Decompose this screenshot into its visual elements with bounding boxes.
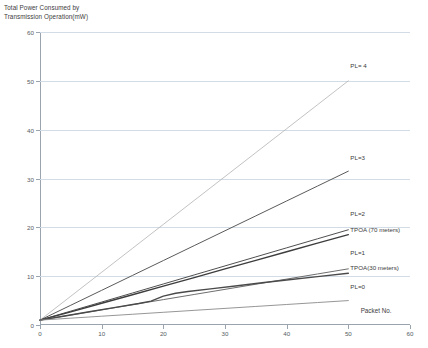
y-tick-label: 50: [27, 77, 34, 84]
y-tick-label: 30: [27, 175, 34, 182]
x-tick: [40, 325, 41, 329]
x-tick-label: 50: [345, 330, 352, 337]
x-tick: [410, 325, 411, 329]
x-tick-label: 40: [283, 330, 290, 337]
x-tick: [348, 325, 349, 329]
x-tick-label: 10: [98, 330, 105, 337]
series-line: [40, 171, 348, 320]
y-tick-label: 20: [27, 224, 34, 231]
series-line: [40, 230, 348, 320]
series-line: [40, 235, 348, 320]
x-tick-label: 0: [38, 330, 41, 337]
y-axis-title: Total Power Consumed by Transmission Ope…: [4, 3, 154, 21]
y-tick-label: 0: [31, 322, 34, 329]
x-axis-title: Packet No.: [361, 307, 392, 314]
series-line: [40, 301, 348, 321]
series-line: [40, 273, 348, 320]
chart-screenshot: Total Power Consumed by Transmission Ope…: [0, 0, 428, 348]
x-tick-label: 30: [222, 330, 229, 337]
series-label: PL=2: [350, 209, 365, 216]
x-tick: [225, 325, 226, 329]
y-tick-label: 10: [27, 273, 34, 280]
series-line: [40, 81, 348, 320]
y-tick-label: 40: [27, 126, 34, 133]
series-label: PL=1: [350, 249, 365, 256]
series-label: PL= 4: [350, 62, 366, 69]
series-label: TPOA(30 meters): [350, 263, 398, 270]
x-tick: [287, 325, 288, 329]
x-tick: [102, 325, 103, 329]
plot-area: 0102030405060 0102030405060 PL= 4PL=3PL=…: [40, 32, 410, 325]
series-label: PL=3: [350, 153, 365, 160]
x-tick: [163, 325, 164, 329]
y-tick-label: 60: [27, 29, 34, 36]
series-label: PL=0: [350, 282, 365, 289]
x-tick-label: 60: [407, 330, 414, 337]
series-lines: [40, 32, 410, 325]
x-tick-label: 20: [160, 330, 167, 337]
series-label: TPOA (70 meters): [350, 226, 400, 233]
